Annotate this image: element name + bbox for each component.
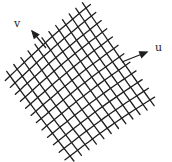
v-axis-label: v [14, 18, 20, 29]
coordinate-grid-diagram [0, 0, 172, 162]
u-axis-label: u [155, 42, 162, 53]
grid-line [59, 88, 148, 152]
grid-lines [5, 3, 154, 161]
axis-arrows [32, 31, 147, 62]
u-arrowhead-icon [139, 52, 147, 58]
grid-line [76, 8, 147, 110]
